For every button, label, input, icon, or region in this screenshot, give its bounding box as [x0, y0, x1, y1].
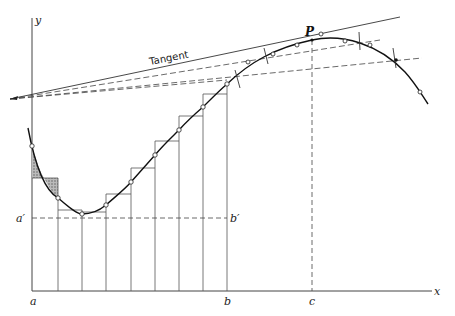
intersection-marker — [394, 58, 398, 62]
secant-line-1 — [10, 40, 380, 99]
b-prime-label: b′ — [230, 212, 240, 225]
a-label: a — [30, 295, 37, 308]
secant-line-2 — [10, 58, 422, 99]
x-axis-label: x — [434, 285, 441, 298]
sample-points — [30, 32, 422, 216]
y-axis-label: y — [34, 14, 42, 27]
tangent-label: Tangent — [147, 49, 189, 68]
a-prime-label: a′ — [16, 212, 26, 225]
arrow-icon — [10, 96, 18, 100]
point-p-label: P — [304, 25, 315, 39]
tangent-lines — [10, 17, 422, 100]
shaded-error-regions — [32, 146, 58, 198]
calculus-diagram: y x a b c a′ b′ P Tangent — [0, 0, 455, 316]
c-label: c — [309, 295, 315, 308]
tangent-line — [10, 17, 400, 99]
riemann-rectangles — [32, 82, 227, 291]
b-label: b — [224, 295, 231, 308]
secant-line-3 — [10, 80, 227, 99]
axes — [32, 18, 432, 291]
